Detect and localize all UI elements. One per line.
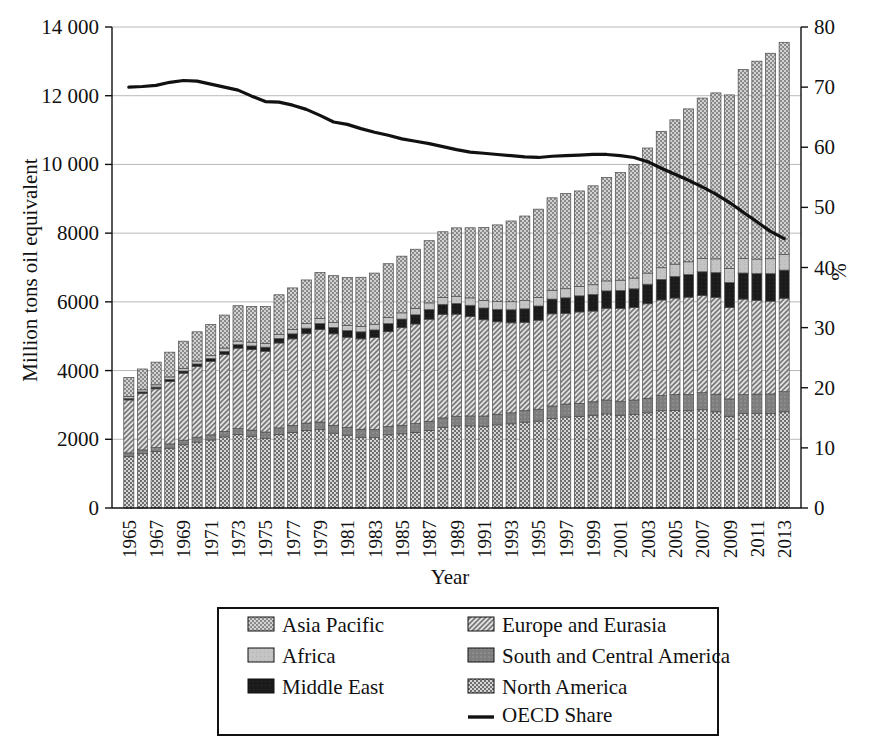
bar-segment xyxy=(301,423,311,430)
bar-segment xyxy=(288,334,298,339)
y-axis-title: Million tons oil equivalent xyxy=(18,158,42,382)
bar-segment xyxy=(779,42,789,254)
bar-segment xyxy=(561,289,571,298)
bar-segment xyxy=(451,426,461,508)
bar-segment xyxy=(533,306,543,320)
bar-segment xyxy=(192,366,202,437)
bar-segment xyxy=(247,342,257,346)
bar-segment xyxy=(752,300,762,394)
bar-segment xyxy=(260,307,270,344)
bar-segment xyxy=(247,306,257,342)
bar-segment xyxy=(178,445,188,508)
bar-segment xyxy=(301,334,311,423)
bar-segment xyxy=(151,452,161,508)
bar-segment xyxy=(697,393,707,410)
bar-segment xyxy=(479,320,489,416)
bar-segment xyxy=(588,285,598,295)
bar-segment xyxy=(492,322,502,414)
bar-segment xyxy=(206,361,216,435)
bar-segment xyxy=(329,276,339,323)
bar-segment xyxy=(247,436,257,508)
bar-segment xyxy=(219,354,229,431)
bar-segment xyxy=(137,369,147,390)
y-axis-tick-label: 8000 xyxy=(57,221,99,245)
bar-segment xyxy=(260,347,270,351)
legend-label: South and Central America xyxy=(502,644,731,668)
legend-label: North America xyxy=(502,675,628,699)
bar-segment xyxy=(165,444,175,448)
bar-segment xyxy=(765,274,775,301)
stacked-bar-chart: 0200040006000800010 00012 00014 000 0102… xyxy=(0,0,870,756)
bar-segment xyxy=(602,291,612,308)
bar-segment xyxy=(315,330,325,422)
bar-segment xyxy=(260,351,270,432)
bar-segment xyxy=(561,417,571,508)
bar-segment xyxy=(547,299,557,314)
bar-segment xyxy=(260,432,270,438)
bar-segment xyxy=(315,324,325,330)
x-axis-tick-label: 1969 xyxy=(173,520,194,558)
bar-segment xyxy=(588,311,598,402)
bar-segment xyxy=(178,368,188,371)
bar-segment xyxy=(643,148,653,273)
bar-segment xyxy=(451,314,461,416)
bar-segment xyxy=(629,414,639,508)
bar-segment xyxy=(383,332,393,427)
x-axis-tick-label: 2011 xyxy=(747,520,768,557)
bar-segment xyxy=(506,424,516,508)
legend-swatch xyxy=(468,679,494,693)
bar-segment xyxy=(629,400,639,414)
bar-segment xyxy=(329,425,339,433)
bar-segment xyxy=(465,416,475,426)
bar-segment xyxy=(165,352,175,377)
x-axis-title: Year xyxy=(431,565,470,589)
bar-segment xyxy=(206,359,216,362)
bar-segment xyxy=(410,249,420,308)
bar-segment xyxy=(520,216,530,301)
bar-segment xyxy=(533,297,543,306)
bar-segment xyxy=(219,351,229,354)
x-axis-tick-label: 1981 xyxy=(337,520,358,558)
bar-segment xyxy=(206,435,216,440)
bar-segment xyxy=(602,400,612,414)
bar-segment xyxy=(356,326,366,331)
bar-segment xyxy=(602,308,612,400)
bar-segment xyxy=(697,272,707,296)
bar-segment xyxy=(765,259,775,274)
bar-segment xyxy=(192,361,202,364)
bar-segment xyxy=(438,315,448,418)
bar-segment xyxy=(547,198,557,290)
x-axis-tick-label: 1985 xyxy=(392,520,413,558)
bar-segment xyxy=(274,334,284,338)
bar-segment xyxy=(670,410,680,508)
bar-segment xyxy=(342,325,352,330)
bar-segment xyxy=(574,312,584,403)
bar-segment xyxy=(574,296,584,312)
bar-segment xyxy=(752,259,762,273)
secondary-y-axis-tick-label: 30 xyxy=(814,316,835,340)
bar-segment xyxy=(643,273,653,284)
bar-segment xyxy=(288,425,298,432)
bar-segment xyxy=(574,191,584,287)
x-axis-tick-label: 1997 xyxy=(556,520,577,558)
bar-segment xyxy=(629,308,639,400)
bar-segment xyxy=(233,306,243,341)
bar-segment xyxy=(424,303,434,310)
bar-segment xyxy=(629,278,639,289)
x-axis-tick-label: 1991 xyxy=(474,520,495,558)
bar-segment xyxy=(492,302,502,310)
bar-segment xyxy=(779,412,789,508)
bar-segment xyxy=(465,305,475,316)
bar-segment xyxy=(315,430,325,508)
x-axis-tick-label: 1989 xyxy=(447,520,468,558)
secondary-y-axis-tick-label: 0 xyxy=(814,496,825,520)
bar-segment xyxy=(684,109,694,262)
bar-segment xyxy=(178,373,188,440)
bar-segment xyxy=(602,177,612,280)
bar-segment xyxy=(397,319,407,328)
bar-segment xyxy=(629,164,639,278)
bar-segment xyxy=(765,394,775,414)
bar-segment xyxy=(165,377,175,379)
bar-segment xyxy=(410,424,420,433)
bar-segment xyxy=(137,394,147,450)
